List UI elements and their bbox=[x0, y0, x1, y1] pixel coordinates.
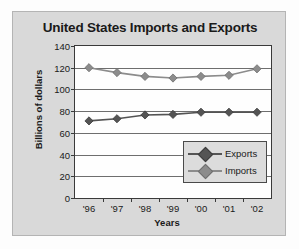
y-tick-mark bbox=[71, 198, 75, 199]
y-tick-label: 80 bbox=[59, 106, 70, 117]
legend-label-exports: Exports bbox=[225, 148, 257, 159]
legend: Exports Imports bbox=[183, 141, 267, 183]
x-tick-mark bbox=[215, 198, 216, 202]
y-tick-label: 140 bbox=[54, 41, 70, 52]
legend-item-exports: Exports bbox=[188, 145, 262, 162]
x-tick-label: '02 bbox=[251, 203, 263, 214]
data-point-imports bbox=[169, 74, 177, 82]
x-tick-label: '97 bbox=[111, 203, 123, 214]
y-axis-title: Billions of dollars bbox=[33, 60, 44, 160]
y-tick-label: 100 bbox=[54, 84, 70, 95]
data-point-exports bbox=[113, 115, 121, 123]
y-tick-label: 120 bbox=[54, 62, 70, 73]
chart-panel: United States Imports and Exports Billio… bbox=[12, 11, 286, 236]
data-point-exports bbox=[225, 108, 233, 116]
x-tick-label: '00 bbox=[195, 203, 207, 214]
data-point-imports bbox=[225, 71, 233, 79]
legend-marker-imports bbox=[188, 165, 222, 177]
data-point-exports bbox=[85, 117, 93, 125]
data-point-imports bbox=[141, 72, 149, 80]
y-tick-label: 0 bbox=[65, 193, 70, 204]
legend-marker-exports bbox=[188, 148, 222, 160]
data-point-exports bbox=[169, 110, 177, 118]
x-tick-mark bbox=[243, 198, 244, 202]
legend-label-imports: Imports bbox=[225, 165, 257, 176]
x-tick-label: '99 bbox=[167, 203, 179, 214]
x-tick-mark bbox=[187, 198, 188, 202]
x-tick-mark bbox=[159, 198, 160, 202]
x-tick-label: '96 bbox=[83, 203, 95, 214]
plot-area: 020406080100120140 '96'97'98'99'00'01'02… bbox=[74, 45, 272, 199]
data-point-imports bbox=[253, 65, 261, 73]
data-point-imports bbox=[113, 69, 121, 77]
chart-title: United States Imports and Exports bbox=[13, 20, 287, 35]
y-tick-label: 60 bbox=[59, 127, 70, 138]
x-tick-label: '98 bbox=[139, 203, 151, 214]
data-point-exports bbox=[253, 108, 261, 116]
x-axis-title: Years bbox=[62, 217, 272, 228]
data-point-imports bbox=[197, 72, 205, 80]
x-tick-label: '01 bbox=[223, 203, 235, 214]
data-point-imports bbox=[85, 64, 93, 72]
x-tick-mark bbox=[103, 198, 104, 202]
legend-item-imports: Imports bbox=[188, 162, 262, 179]
figure: United States Imports and Exports Billio… bbox=[0, 0, 299, 249]
data-point-exports bbox=[197, 108, 205, 116]
x-tick-mark bbox=[131, 198, 132, 202]
y-tick-label: 20 bbox=[59, 171, 70, 182]
y-tick-label: 40 bbox=[59, 149, 70, 160]
data-point-exports bbox=[141, 111, 149, 119]
